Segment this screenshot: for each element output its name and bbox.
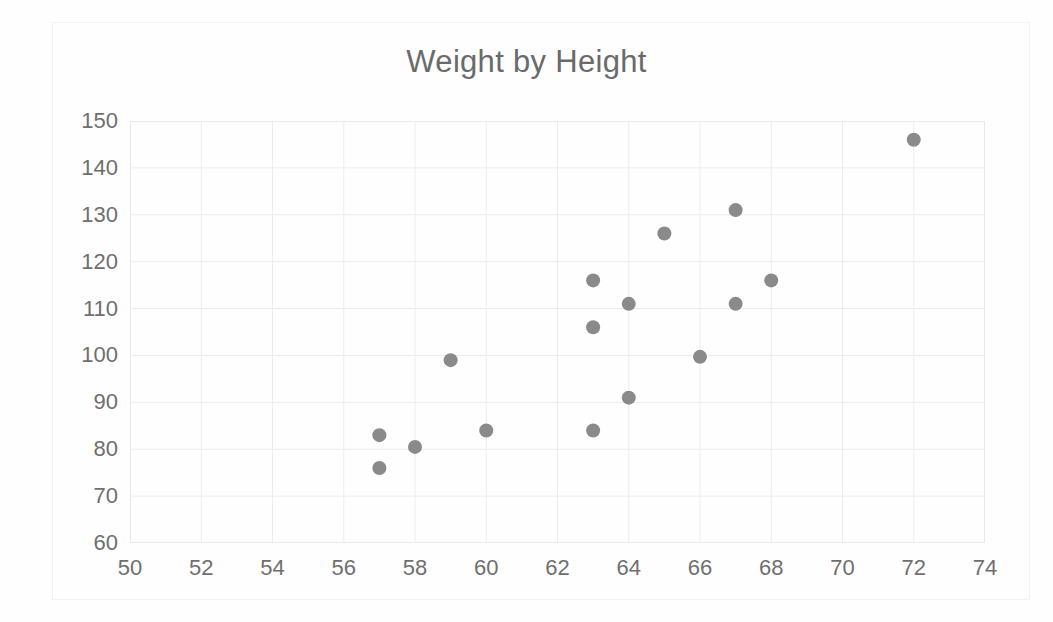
- y-axis-tick-label: 100: [58, 344, 118, 366]
- x-axis-tick-label: 66: [665, 557, 735, 579]
- scatter-point: [693, 350, 707, 364]
- scatter-point: [764, 273, 778, 287]
- x-axis-tick-label: 68: [736, 557, 806, 579]
- y-axis-tick-label: 90: [58, 391, 118, 413]
- scatter-point: [729, 297, 743, 311]
- y-axis-tick-label: 120: [58, 251, 118, 273]
- x-axis-tick-labels: 50525456586062646668707274: [130, 557, 985, 587]
- y-axis-tick-labels: 60708090100110120130140150: [58, 121, 118, 543]
- scatter-point: [657, 227, 671, 241]
- x-axis-tick-label: 56: [309, 557, 379, 579]
- x-axis-tick-label: 74: [950, 557, 1020, 579]
- y-axis-tick-label: 130: [58, 204, 118, 226]
- y-axis-tick-label: 80: [58, 438, 118, 460]
- x-axis-tick-label: 50: [95, 557, 165, 579]
- x-axis-tick-label: 64: [594, 557, 664, 579]
- x-axis-tick-label: 58: [380, 557, 450, 579]
- scatter-point: [907, 133, 921, 147]
- y-axis-tick-label: 110: [58, 298, 118, 320]
- scatter-point: [586, 320, 600, 334]
- gridlines: [130, 121, 985, 543]
- chart-title: Weight by Height: [0, 44, 1053, 80]
- chart-container: Weight by Height 60708090100110120130140…: [0, 0, 1053, 622]
- scatter-point: [622, 297, 636, 311]
- scatter-point: [444, 353, 458, 367]
- y-axis-tick-label: 140: [58, 157, 118, 179]
- plot-area: [130, 121, 985, 543]
- scatter-point: [586, 273, 600, 287]
- scatter-point: [586, 423, 600, 437]
- x-axis-tick-label: 52: [166, 557, 236, 579]
- scatter-point: [622, 391, 636, 405]
- y-axis-tick-label: 60: [58, 532, 118, 554]
- scatter-plot-svg: [130, 121, 985, 543]
- x-axis-tick-label: 60: [451, 557, 521, 579]
- scatter-point: [372, 461, 386, 475]
- scatter-point: [729, 203, 743, 217]
- x-axis-tick-label: 54: [238, 557, 308, 579]
- data-point-markers: [372, 133, 920, 475]
- x-axis-tick-label: 72: [879, 557, 949, 579]
- y-axis-tick-label: 150: [58, 110, 118, 132]
- scatter-point: [479, 423, 493, 437]
- x-axis-tick-label: 62: [523, 557, 593, 579]
- scatter-point: [408, 440, 422, 454]
- y-axis-tick-label: 70: [58, 485, 118, 507]
- scatter-point: [372, 428, 386, 442]
- x-axis-tick-label: 70: [808, 557, 878, 579]
